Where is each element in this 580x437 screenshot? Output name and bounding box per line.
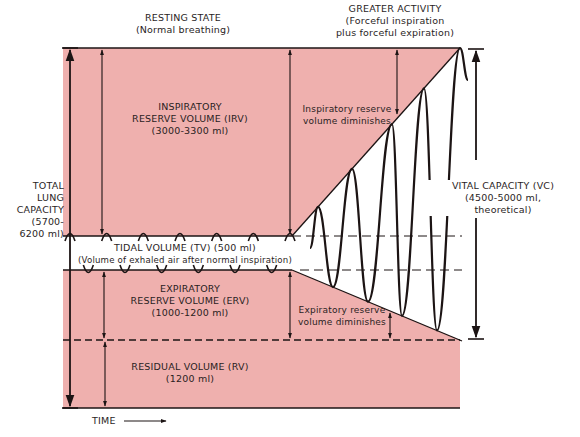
irv-label-value: (3000-3300 ml) xyxy=(110,125,270,137)
erv-diminishes-label: Expiratory reserve volume diminishes xyxy=(292,304,392,328)
erv-label-value: (1000-1200 ml) xyxy=(110,307,270,319)
vc-label: VITAL CAPACITY (VC) (4500-5000 ml, theor… xyxy=(428,180,578,216)
tlc-label: TOTAL LUNG CAPACITY (5700- 6200 ml) xyxy=(2,180,64,240)
irv-diminishes-label: Inspiratory reserve volume diminishes xyxy=(292,103,402,127)
tv-label-line1: TIDAL VOLUME (TV) (500 ml) xyxy=(74,242,296,254)
vc-line3: theoretical) xyxy=(428,204,578,216)
erv-label-line1: EXPIRATORY xyxy=(110,283,270,295)
tlc-line2: LUNG xyxy=(2,192,64,204)
greater-activity-header: GREATER ACTIVITY (Forceful inspiration p… xyxy=(310,3,480,39)
resting-state-title: RESTING STATE xyxy=(118,12,248,24)
lung-volume-diagram xyxy=(0,0,580,437)
erv-diminishes-line2: volume diminishes xyxy=(292,316,392,328)
irv-diminishes-line2: volume diminishes xyxy=(292,115,402,127)
rv-label-value: (1200 ml) xyxy=(110,373,270,385)
rv-label: RESIDUAL VOLUME (RV) (1200 ml) xyxy=(110,361,270,385)
irv-label-line1: INSPIRATORY xyxy=(110,101,270,113)
greater-activity-line2: (Forceful inspiration xyxy=(310,15,480,27)
resting-state-header: RESTING STATE (Normal breathing) xyxy=(118,12,248,36)
resting-state-subtitle: (Normal breathing) xyxy=(118,24,248,36)
tlc-line5: 6200 ml) xyxy=(2,228,64,240)
tlc-line4: (5700- xyxy=(2,216,64,228)
greater-activity-title: GREATER ACTIVITY xyxy=(310,3,480,15)
irv-label-line2: RESERVE VOLUME (IRV) xyxy=(110,113,270,125)
greater-activity-line3: plus forceful expiration) xyxy=(310,27,480,39)
rv-label-line1: RESIDUAL VOLUME (RV) xyxy=(110,361,270,373)
tv-label-line2: (Volume of exhaled air after normal insp… xyxy=(74,254,296,266)
erv-label: EXPIRATORY RESERVE VOLUME (ERV) (1000-12… xyxy=(110,283,270,319)
vc-line1: VITAL CAPACITY (VC) xyxy=(428,180,578,192)
erv-label-line2: RESERVE VOLUME (ERV) xyxy=(110,295,270,307)
irv-diminishes-line1: Inspiratory reserve xyxy=(292,103,402,115)
vc-line2: (4500-5000 ml, xyxy=(428,192,578,204)
irv-label: INSPIRATORY RESERVE VOLUME (IRV) (3000-3… xyxy=(110,101,270,137)
tlc-line1: TOTAL xyxy=(2,180,64,192)
time-axis-label: TIME xyxy=(92,415,116,427)
erv-diminishes-line1: Expiratory reserve xyxy=(292,304,392,316)
tlc-line3: CAPACITY xyxy=(2,204,64,216)
irv-region xyxy=(63,48,460,236)
tv-label: TIDAL VOLUME (TV) (500 ml) (Volume of ex… xyxy=(74,242,296,266)
